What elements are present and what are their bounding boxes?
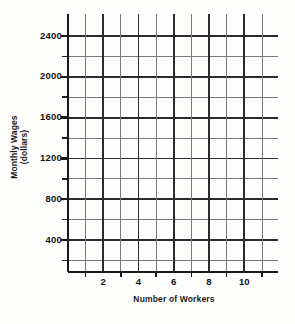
x-axis-tick-labels: 246810 <box>0 0 295 324</box>
x-axis-tick-label: 4 <box>127 276 151 287</box>
chart-figure: Monthly Wages (dollars) 2400200016001200… <box>0 0 295 324</box>
x-axis-tick-label: 10 <box>232 276 256 287</box>
x-axis-title: Number of Workers <box>68 294 280 304</box>
x-axis-tick-label: 2 <box>91 276 115 287</box>
x-axis-tick-label: 6 <box>162 276 186 287</box>
x-axis-tick-label: 8 <box>197 276 221 287</box>
